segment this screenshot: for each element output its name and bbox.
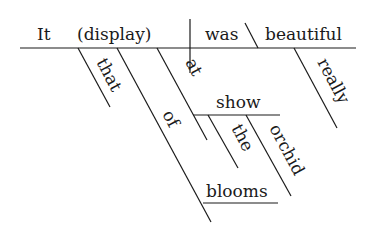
word-blooms: blooms xyxy=(206,181,268,201)
word-of: of xyxy=(158,106,184,131)
word-orchid: orchid xyxy=(265,120,309,178)
word-verb: was xyxy=(205,24,238,44)
word-complement: beautiful xyxy=(265,24,342,44)
word-at: at xyxy=(181,54,207,79)
word-really: really xyxy=(313,54,354,107)
word-show: show xyxy=(216,92,261,112)
word-subject: It xyxy=(37,24,51,44)
word-appositive: (display) xyxy=(77,24,151,44)
modifier-line-the xyxy=(208,115,238,168)
sentence-diagram: It (display) was beautiful that of bloom… xyxy=(0,0,379,233)
word-that: that xyxy=(92,54,126,94)
word-the: the xyxy=(227,120,258,154)
complement-divider xyxy=(245,23,258,48)
